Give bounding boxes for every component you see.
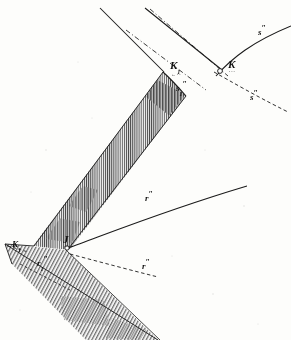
label-K-underline: ··· xyxy=(229,69,236,74)
label-r1-double-prime: r1″ xyxy=(37,259,47,270)
label-s-upper-base: s xyxy=(258,27,262,37)
label-s1-double-prime: s1″ xyxy=(176,84,186,95)
figure-canvas: K1 ←·· K ··· s1″ s″ s″ r″ r″ K1 r1″ J ··… xyxy=(0,0,291,340)
point-K xyxy=(218,69,223,74)
label-r1-base: r xyxy=(37,258,41,268)
rays xyxy=(100,8,222,72)
label-K1-left-sub: 1 xyxy=(18,247,21,253)
label-K: K ··· xyxy=(228,59,236,74)
label-K1-sub: 1 xyxy=(177,69,180,75)
label-s-double-prime-lower: s″ xyxy=(250,93,257,102)
label-r1-prime: ″ xyxy=(44,255,48,264)
label-K1-left: K1 xyxy=(12,240,21,251)
label-s1-prime: ″ xyxy=(183,80,187,89)
label-J: J ···· xyxy=(63,234,73,249)
ray-left-solid xyxy=(100,8,164,72)
label-J-underline: ···· xyxy=(64,244,73,249)
label-r-double-prime-lower: r″ xyxy=(142,262,149,271)
label-r-upper-base: r xyxy=(145,193,149,203)
label-s-lower-prime: ″ xyxy=(254,89,258,98)
label-r-double-prime-upper: r″ xyxy=(145,194,152,203)
band-upper-wash xyxy=(33,72,186,249)
label-s1-base: s xyxy=(176,83,180,93)
label-r-lower-base: r xyxy=(142,261,146,271)
label-s-double-prime-upper: s″ xyxy=(258,28,265,37)
label-K1: K1 ←·· xyxy=(170,60,182,77)
diagram-svg xyxy=(0,0,291,340)
label-s1-sub: 1 xyxy=(180,91,183,97)
label-r-upper-prime: ″ xyxy=(149,190,153,199)
label-r1-sub: 1 xyxy=(41,266,44,272)
label-s-lower-base: s xyxy=(250,92,254,102)
label-s-upper-prime: ″ xyxy=(262,24,266,33)
label-r-lower-prime: ″ xyxy=(146,258,150,267)
